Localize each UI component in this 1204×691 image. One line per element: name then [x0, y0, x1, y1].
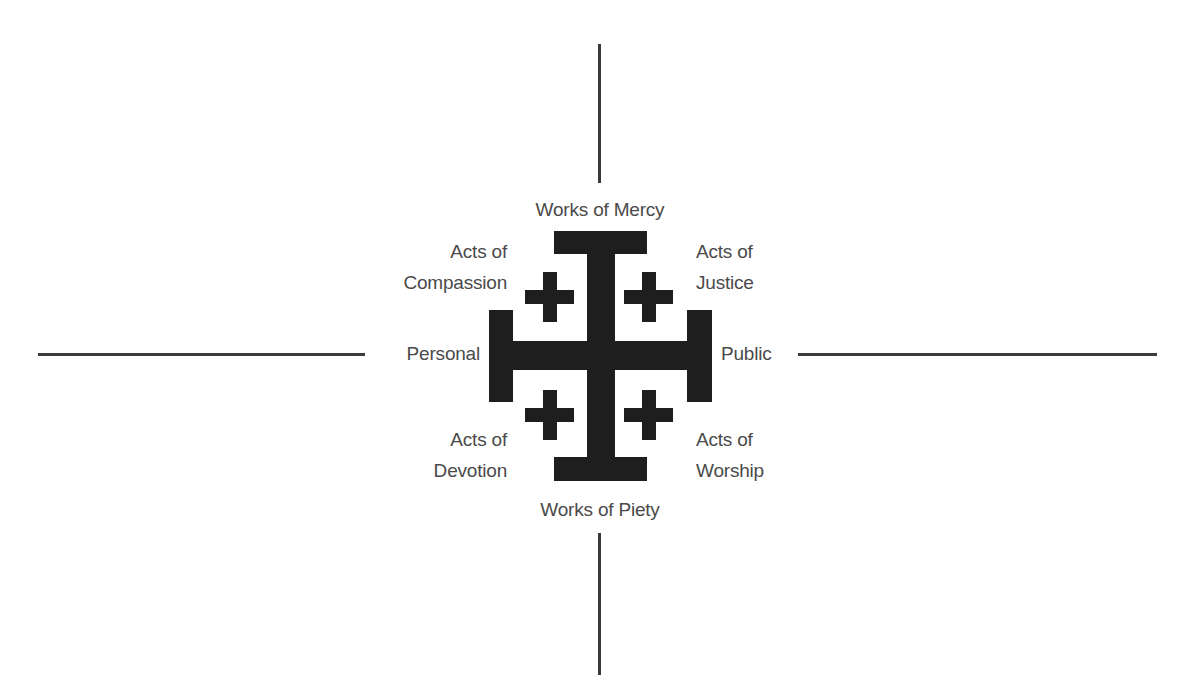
axis-line-top [598, 44, 601, 183]
label-works-of-piety: Works of Piety [500, 498, 700, 521]
label-acts-of-justice: Acts of Justice [696, 240, 846, 294]
label-acts-of-compassion: Acts of Compassion [357, 240, 507, 294]
label-acts-of-worship: Acts of Worship [696, 428, 846, 482]
cross-horizontal-bar [489, 341, 712, 370]
cross-left-bar [489, 310, 513, 402]
cross-right-bar [687, 310, 712, 402]
cross-bottom-bar [554, 457, 647, 481]
label-acts-of-devotion: Acts of Devotion [357, 428, 507, 482]
label-works-of-mercy: Works of Mercy [500, 198, 700, 221]
axis-line-bottom [598, 533, 601, 675]
label-public: Public [721, 342, 871, 365]
label-personal: Personal [330, 342, 480, 365]
axis-line-left [38, 353, 365, 356]
